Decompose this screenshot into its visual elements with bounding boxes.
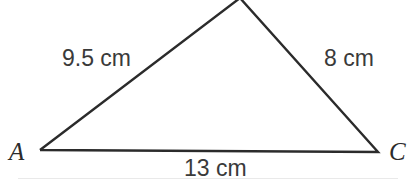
- triangle-figure: A C 9.5 cm 8 cm 13 cm: [0, 0, 413, 187]
- side-length-label-ac: 13 cm: [184, 157, 247, 180]
- triangle-outline: [40, 0, 378, 152]
- side-length-label-bc: 8 cm: [324, 47, 374, 70]
- vertex-label-a: A: [9, 139, 24, 164]
- side-length-label-ab: 9.5 cm: [62, 47, 131, 70]
- vertex-label-c: C: [389, 139, 406, 164]
- scan-artifact-line: [18, 178, 398, 179]
